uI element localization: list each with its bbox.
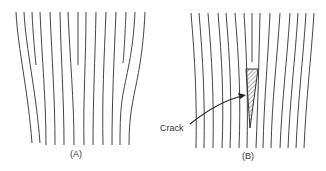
crack-label: Crack <box>160 123 184 133</box>
panel-b-label: (B) <box>242 151 254 161</box>
panel-a-label: (A) <box>70 149 82 159</box>
panel-a-lines <box>16 12 145 145</box>
figure: (A) Crack (B) <box>0 0 326 171</box>
crack-arrow <box>190 96 242 124</box>
